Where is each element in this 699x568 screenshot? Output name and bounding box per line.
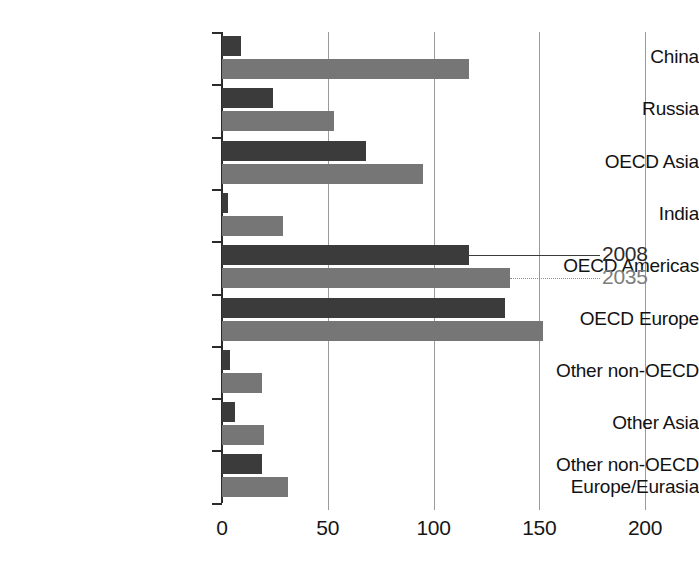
bar-2035-russia [222,111,334,131]
bar-2035-china [222,59,469,79]
category-label-russia: Russia [491,98,699,120]
x-tick-label-0: 0 [192,516,252,540]
category-label-line: OECD Europe [491,308,699,330]
bar-2035-other-non-oecd-europe-eurasia [222,477,288,497]
category-label-other-non-oecd: Other non-OECD [491,360,699,382]
category-label-line: Russia [491,98,699,120]
category-label-line: India [491,203,699,225]
bar-2008-india [222,193,228,213]
category-label-line: OECD Americas [491,255,699,277]
bar-2035-other-non-oecd [222,373,262,393]
bar-2008-oecd-americas [222,245,469,265]
bar-2035-oecd-americas [222,268,510,288]
x-tick-label-150: 150 [509,516,569,540]
bar-2035-oecd-asia [222,164,423,184]
series-annotation-2008: 2008 [602,242,648,266]
category-label-china: China [491,46,699,68]
leader-line-2008 [469,255,600,256]
category-label-line: Other non-OECD [491,454,699,476]
y-axis-tick-3 [212,189,222,191]
category-label-india: India [491,203,699,225]
y-axis-tick-0 [212,32,222,34]
y-axis-tick-6 [212,346,222,348]
bar-2008-oecd-europe [222,298,505,318]
category-label-oecd-europe: OECD Europe [491,308,699,330]
bar-chart: ChinaRussiaOECD AsiaIndiaOECD AmericasOE… [0,0,699,568]
category-label-line: OECD Asia [491,151,699,173]
bar-2008-other-non-oecd [222,350,230,370]
bar-2008-china [222,36,241,56]
category-label-line: China [491,46,699,68]
bar-2008-other-asia [222,402,235,422]
bar-2035-india [222,216,283,236]
y-axis-tick-4 [212,241,222,243]
leader-line-2035 [510,278,600,279]
y-axis-tick-5 [212,294,222,296]
y-axis-tick-2 [212,137,222,139]
bar-2008-other-non-oecd-europe-eurasia [222,454,262,474]
series-annotation-2035: 2035 [602,265,648,289]
category-label-other-asia: Other Asia [491,412,699,434]
category-label-line: Other Asia [491,412,699,434]
x-tick-label-100: 100 [404,516,464,540]
category-label-oecd-asia: OECD Asia [491,151,699,173]
category-label-column [0,0,215,568]
x-tick-label-50: 50 [298,516,358,540]
category-label-line: Europe/Eurasia [491,476,699,498]
y-axis-tick-9 [212,503,222,505]
y-axis-tick-1 [212,84,222,86]
bar-2035-other-asia [222,425,264,445]
category-label-oecd-americas: OECD Americas [491,255,699,277]
bar-2008-russia [222,88,273,108]
category-label-line: Other non-OECD [491,360,699,382]
bar-2008-oecd-asia [222,141,366,161]
category-label-other-non-oecd-europe-eurasia: Other non-OECDEurope/Eurasia [491,454,699,498]
y-axis-tick-8 [212,450,222,452]
y-axis-tick-7 [212,398,222,400]
x-tick-label-200: 200 [615,516,675,540]
